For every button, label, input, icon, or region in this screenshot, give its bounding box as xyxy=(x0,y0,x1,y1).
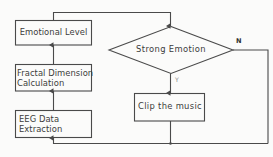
flowchart-canvas: Emotional Level Fractal DimensionCalcula… xyxy=(0,0,273,157)
flowchart-graphics xyxy=(0,0,273,157)
node-strong-emotion xyxy=(109,27,233,74)
node-emotional-level xyxy=(16,21,92,46)
junction-dot-bottom xyxy=(169,142,172,145)
edge-return-rail-to-eeg xyxy=(54,138,269,144)
edge-decision-no-to-return-rail xyxy=(233,50,268,144)
node-clip-music xyxy=(135,94,205,122)
node-fractal-dimension xyxy=(16,65,92,92)
node-eeg-extraction xyxy=(16,111,92,138)
